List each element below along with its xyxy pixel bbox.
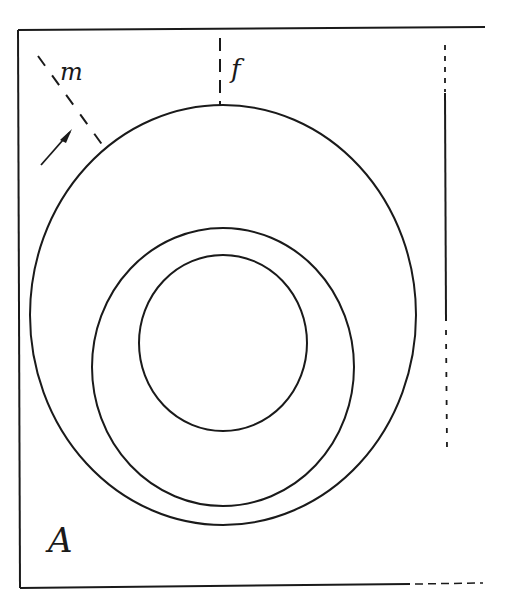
frame-top-edge [18,27,485,30]
rings [30,105,416,525]
inner-circle [139,255,307,431]
frame-left-edge [18,30,20,588]
label-f: f [229,54,245,84]
panel-label: A [45,520,73,560]
f-marker: f [220,38,245,106]
outer-ellipse [30,105,416,525]
arrow-head-icon [60,129,72,143]
middle-ellipse [92,228,354,506]
frame-bottom-edge [20,584,410,588]
diagram-canvas: f m A [0,0,506,604]
frame-bottom-edge-dashed [415,583,483,584]
m-marker: m [38,56,106,150]
label-m: m [60,58,83,86]
rotation-arrow [41,129,72,165]
right-line-dashed-bottom [446,330,447,448]
right-vertical-line [445,45,447,448]
right-line-solid [445,93,446,321]
